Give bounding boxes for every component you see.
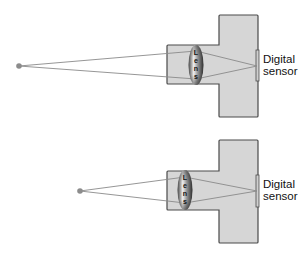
camera-body (167, 15, 258, 117)
camera-focus-diagram: L e n s Digital sensor L e n s Digital s… (0, 0, 307, 255)
lens-label-n: n (194, 65, 198, 72)
lens-label-n: n (183, 190, 187, 197)
lens: L e n s (178, 170, 193, 210)
panel-near-object: L e n s Digital sensor (77, 140, 297, 243)
lens-label-e: e (194, 57, 198, 64)
lens-label-e: e (183, 182, 187, 189)
sensor-label-line1: Digital (263, 178, 295, 190)
lens-label-s: s (183, 198, 187, 205)
panel-far-object: L e n s Digital sensor (16, 15, 297, 117)
sensor-label-line2: sensor (263, 65, 298, 77)
lens: L e n s (189, 45, 204, 85)
lens-label-l: L (183, 174, 188, 181)
sensor-label-line1: Digital (263, 53, 295, 65)
object-point (77, 188, 83, 194)
object-point (16, 63, 22, 69)
lens-label-l: L (194, 49, 199, 56)
sensor-label-line2: sensor (263, 190, 298, 202)
lens-label-s: s (194, 73, 198, 80)
